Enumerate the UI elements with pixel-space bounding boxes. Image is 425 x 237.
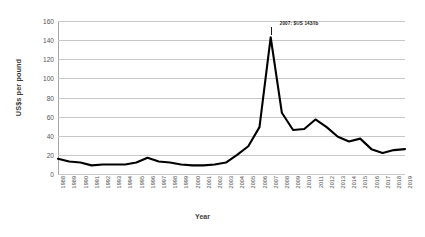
y-tick-label: 140 — [43, 37, 54, 44]
x-tick-label: 1997 — [161, 176, 167, 188]
x-tick-label: 2011 — [318, 176, 324, 188]
x-tick-label: 1993 — [116, 176, 122, 188]
x-tick-label: 2013 — [340, 176, 346, 188]
annotation-label: 2007: $US 143/lb — [280, 21, 319, 26]
y-tick-label: 100 — [43, 75, 54, 82]
y-tick-label: 80 — [47, 94, 54, 101]
x-tick-label: 2008 — [284, 176, 290, 188]
x-tick-label: 2015 — [362, 176, 368, 188]
x-tick-label: 2005 — [250, 176, 256, 188]
x-tick-label: 2000 — [195, 176, 201, 188]
x-tick-label: 2001 — [206, 176, 212, 188]
x-axis-title-text: Year — [195, 213, 210, 220]
x-tick-label: 1999 — [183, 176, 189, 188]
gridline-0: 0 — [58, 174, 405, 175]
x-tick-label: 1995 — [139, 176, 145, 188]
x-tick-label: 2003 — [228, 176, 234, 188]
y-tick-label: 60 — [47, 113, 54, 120]
y-tick-label: 160 — [43, 18, 54, 25]
x-tick-label: 2009 — [295, 176, 301, 188]
x-tick-label: 1994 — [127, 176, 133, 188]
x-tick-label: 2006 — [262, 176, 268, 188]
annotation-marker — [271, 27, 272, 35]
x-axis-title: Year — [0, 213, 425, 220]
x-tick-label: 1992 — [105, 176, 111, 188]
y-tick-label: 120 — [43, 56, 54, 63]
x-tick-label: 1991 — [94, 176, 100, 188]
x-tick-label: 1990 — [83, 176, 89, 188]
x-tick-label: 2019 — [407, 176, 413, 188]
y-tick-label: 0 — [50, 171, 54, 178]
plot-area: 020406080100120140160 2007: $US 143/lb — [58, 21, 405, 174]
y-tick-label: 20 — [47, 151, 54, 158]
x-tick-label: 2010 — [306, 176, 312, 188]
price-line-series — [58, 21, 405, 174]
x-axis-labels: 1988198919901991199219931994199519961997… — [58, 176, 405, 208]
uranium-price-chart: US$s per pound 020406080100120140160 200… — [0, 0, 425, 237]
x-tick-label: 2018 — [396, 176, 402, 188]
x-tick-label: 1989 — [71, 176, 77, 188]
x-tick-label: 1996 — [150, 176, 156, 188]
y-tick-label: 40 — [47, 132, 54, 139]
x-tick-label: 2002 — [217, 176, 223, 188]
y-axis-title: US$s per pound — [14, 33, 23, 143]
x-tick-label: 2012 — [329, 176, 335, 188]
x-tick-label: 2016 — [374, 176, 380, 188]
x-tick-label: 2017 — [385, 176, 391, 188]
x-tick-label: 2004 — [239, 176, 245, 188]
x-tick-label: 1998 — [172, 176, 178, 188]
x-tick-label: 1988 — [60, 176, 66, 188]
x-tick-label: 2014 — [351, 176, 357, 188]
x-tick-label: 2007 — [273, 176, 279, 188]
